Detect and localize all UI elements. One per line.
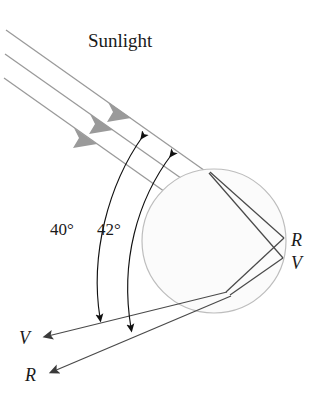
exit-label-red-near: R <box>290 230 302 250</box>
diagram-canvas: Sunlight 40° 42° R V V R <box>0 0 320 409</box>
sunlight-label: Sunlight <box>88 30 153 51</box>
exit-ray-violet <box>48 292 227 336</box>
exit-label-violet-near: V <box>291 253 304 273</box>
angle-label-42: 42° <box>97 220 121 239</box>
exit-label-violet-far: V <box>19 328 32 348</box>
sunlight-ray-2-arrowhead <box>89 114 113 134</box>
rainbow-refraction-diagram: Sunlight 40° 42° R V V R <box>0 0 320 409</box>
sunlight-ray-1-arrowhead <box>107 102 131 122</box>
water-droplet <box>142 169 286 313</box>
exit-label-red-far: R <box>24 365 36 385</box>
exit-ray-red <box>54 296 231 371</box>
sunlight-ray-1 <box>6 30 232 190</box>
angle-label-40: 40° <box>50 220 74 239</box>
